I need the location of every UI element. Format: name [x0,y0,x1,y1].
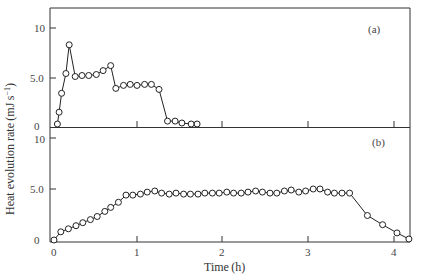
data-point-marker [331,190,337,196]
data-point-marker [172,118,178,124]
data-point-marker [310,186,316,192]
data-point-marker [123,192,129,198]
data-point-marker [115,199,121,205]
top-y-ticks [50,28,394,127]
data-point-marker [288,187,294,193]
data-point-marker [79,73,85,79]
data-point-marker [156,86,162,92]
data-point-marker [394,230,400,236]
data-point-marker [224,189,230,195]
data-point-marker [173,190,179,196]
panel-label-b: (b) [372,136,385,149]
data-point-marker [187,191,193,197]
data-point-marker [80,220,86,226]
data-point-marker [216,190,222,196]
axes-frame [50,8,410,242]
data-point-marker [179,120,185,126]
data-point-marker [73,223,79,229]
top-ytick-10: 10 [34,22,46,34]
data-point-marker [100,68,106,74]
data-point-marker [63,71,69,77]
data-point-marker [66,42,72,48]
bottom-ytick-0: 0 [34,234,40,246]
top-ytick-5: 5.0 [30,72,44,84]
data-point-marker [188,121,194,127]
data-point-marker [181,191,187,197]
data-point-marker [202,190,208,196]
data-point-marker [317,186,323,192]
data-point-marker [56,109,62,115]
data-point-marker [144,189,150,195]
data-point-marker [94,214,100,220]
data-point-marker [134,82,140,88]
data-point-marker [148,81,154,87]
data-point-marker [130,192,136,198]
xtick-3: 3 [305,246,311,258]
data-point-marker [108,204,114,210]
data-point-marker [59,90,65,96]
top-ytick-0: 0 [34,120,40,132]
data-point-marker [86,73,92,79]
data-point-marker [113,85,119,91]
data-point-marker [303,188,309,194]
xtick-2: 2 [219,246,225,258]
data-point-marker [194,121,200,127]
data-point-marker [380,222,386,228]
data-point-marker [406,236,412,242]
data-point-marker [93,72,99,78]
data-point-marker [245,189,251,195]
data-point-marker [58,229,64,235]
data-point-marker [51,237,57,243]
data-point-marker [209,190,215,196]
series-b-line [51,186,412,243]
data-point-marker [72,74,78,80]
xtick-0: 0 [51,246,57,258]
data-point-marker [339,190,345,196]
bottom-ytick-5: 5.0 [30,183,44,195]
data-point-marker [102,208,108,214]
data-point-marker [121,82,127,88]
data-point-marker [253,188,259,194]
x-axis-title: Time (h) [204,260,245,274]
data-point-marker [127,81,133,87]
data-point-marker [65,226,71,232]
bottom-ytick-10: 10 [34,133,46,145]
panel-label-a: (a) [368,23,381,36]
data-point-marker [238,190,244,196]
data-point-marker [231,190,237,196]
data-point-marker [142,81,148,87]
data-point-marker [195,191,201,197]
data-point-marker [259,189,265,195]
data-point-marker [137,191,143,197]
data-point-marker [159,190,165,196]
series-a-line [54,42,200,127]
figure: 10 5.0 0 10 5.0 0 0 1 2 3 4 (a) (b) Time… [0,0,422,280]
data-point-marker [364,213,370,219]
data-point-marker [87,217,93,223]
data-point-marker [166,191,172,197]
data-point-marker [325,189,331,195]
data-point-marker [281,188,287,194]
data-point-marker [152,188,158,194]
data-point-marker [267,190,273,196]
data-point-marker [108,63,114,69]
xtick-4: 4 [391,246,397,258]
xtick-1: 1 [134,246,140,258]
svg-text:Heat evolution rate (mJ s−1): Heat evolution rate (mJ s−1) [3,83,17,215]
data-point-marker [274,190,280,196]
data-point-marker [347,190,353,196]
data-point-marker [296,189,302,195]
data-point-marker [54,121,60,127]
y-axis-title: Heat evolution rate (mJ s−1) [3,83,17,215]
data-point-marker [165,118,171,124]
